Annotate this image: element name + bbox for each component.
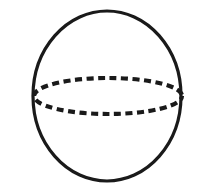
figure-background	[0, 0, 206, 193]
sphere-diagram-svg	[0, 0, 206, 193]
sphere-figure	[0, 0, 206, 193]
